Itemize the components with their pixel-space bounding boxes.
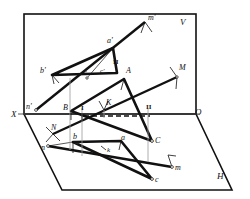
triangle-a-b-c: [73, 141, 152, 179]
label-a: a: [121, 134, 125, 142]
label-M: M: [179, 64, 186, 72]
label-roman-one: I: [81, 105, 84, 112]
label-a-prime: a': [107, 37, 113, 45]
label-m: m: [175, 164, 181, 172]
label-C: C: [155, 137, 160, 145]
label-axis-o: O: [195, 108, 202, 117]
label-N: N: [51, 124, 56, 132]
label-n: n: [41, 144, 45, 152]
label-c: c: [155, 176, 159, 184]
projection-drawing: [0, 0, 250, 199]
projection-diagram-canvas: V H X O a' b' c' k' m' n' A B C K M N a …: [0, 0, 250, 199]
label-c-prime: c': [100, 68, 105, 75]
label-m-prime: m': [148, 14, 156, 22]
label-plane-v: V: [180, 18, 186, 27]
label-plane-h: H: [217, 172, 224, 181]
label-k: k: [107, 147, 110, 154]
label-k-prime: k': [82, 70, 87, 77]
label-b-prime: b': [40, 67, 46, 75]
label-n-prime: n': [26, 103, 32, 111]
construction-n-b-thin: [48, 142, 73, 146]
label-roman-two-axis: II: [146, 104, 151, 111]
label-B: B: [63, 104, 68, 112]
label-b: b: [73, 133, 77, 141]
label-roman-two-upper: II: [113, 59, 118, 66]
label-axis-x: X: [11, 110, 17, 119]
label-A: A: [126, 67, 131, 75]
label-K: K: [106, 99, 111, 107]
